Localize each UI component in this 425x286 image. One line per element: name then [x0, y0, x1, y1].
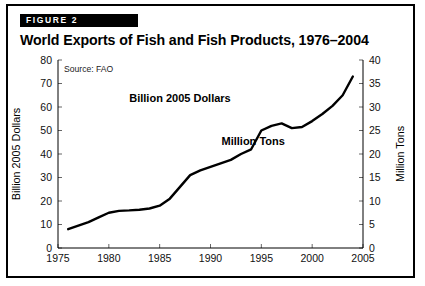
y-axis-right-tick-label: 40 — [369, 54, 381, 66]
x-axis-tick-label: 1995 — [250, 252, 274, 264]
y-axis-right-ticks: 0510152025303540 — [359, 54, 381, 254]
x-axis-tick-label: 1980 — [97, 252, 121, 264]
x-axis-tick-label: 1975 — [46, 252, 70, 264]
y-axis-left-tick-label: 40 — [40, 148, 52, 160]
chart-annotation-label: Billion 2005 Dollars — [129, 92, 230, 104]
chart-plot-area: 01020304050607080 0510152025303540 19751… — [0, 0, 425, 286]
y-axis-right-title: Million Tons — [394, 125, 406, 182]
y-axis-left-ticks: 01020304050607080 — [40, 54, 62, 254]
y-axis-right-tick-label: 5 — [369, 218, 375, 230]
chart-svg: 01020304050607080 0510152025303540 19751… — [0, 0, 425, 286]
y-axis-left-tick-label: 30 — [40, 171, 52, 183]
y-axis-left-title: Billion 2005 Dollars — [10, 107, 22, 200]
y-axis-left-tick-label: 70 — [40, 77, 52, 89]
y-axis-right-tick-label: 35 — [369, 77, 381, 89]
y-axis-left-tick-label: 80 — [40, 54, 52, 66]
y-axis-right-tick-label: 10 — [369, 195, 381, 207]
y-axis-right-tick-label: 25 — [369, 124, 381, 136]
x-axis-tick-label: 1990 — [199, 252, 223, 264]
chart-annotation-label: Million Tons — [222, 135, 285, 147]
x-axis-tick-label: 2005 — [351, 252, 375, 264]
x-axis-tick-label: 2000 — [300, 252, 324, 264]
y-axis-left-tick-label: 50 — [40, 124, 52, 136]
y-axis-right-tick-label: 30 — [369, 101, 381, 113]
chart-annotations: Billion 2005 DollarsMillion Tons — [129, 92, 285, 146]
y-axis-right-tick-label: 15 — [369, 171, 381, 183]
source-note: Source: FAO — [64, 64, 114, 74]
y-axis-left-tick-label: 60 — [40, 101, 52, 113]
x-axis-ticks: 1975198019851990199520002005 — [46, 244, 375, 264]
y-axis-left-tick-label: 10 — [40, 218, 52, 230]
x-axis-tick-label: 1985 — [148, 252, 172, 264]
y-axis-left-tick-label: 20 — [40, 195, 52, 207]
y-axis-right-tick-label: 20 — [369, 148, 381, 160]
